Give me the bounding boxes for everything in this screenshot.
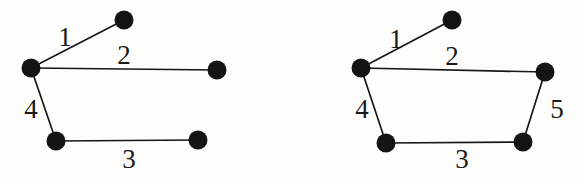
edges-layer	[31, 20, 545, 143]
graph-vertex	[443, 11, 462, 30]
graph-vertex	[208, 61, 227, 80]
graph-vertex	[22, 59, 41, 78]
graph-edge-1	[31, 20, 124, 68]
edge-label-2: 2	[445, 41, 459, 71]
edge-label-1: 1	[58, 22, 72, 52]
edge-label-3: 3	[455, 144, 469, 174]
edge-labels-layer: 124312435	[24, 22, 564, 174]
edge-label-3: 3	[122, 144, 136, 174]
graph-edge-1	[361, 20, 452, 68]
two-graph-diagram: 124312435	[0, 0, 584, 178]
edge-label-4: 4	[355, 94, 369, 124]
edge-label-2: 2	[117, 40, 131, 70]
graph-edge-5	[523, 72, 545, 142]
edge-label-1: 1	[389, 24, 403, 54]
graph-svg: 124312435	[0, 0, 584, 178]
edge-label-4: 4	[24, 94, 38, 124]
graph-vertex	[536, 63, 555, 82]
graph-vertex	[377, 134, 396, 153]
graph-vertex	[115, 11, 134, 30]
graph-vertex	[514, 133, 533, 152]
figure-canvas: 124312435	[0, 0, 584, 178]
graph-edge-3	[56, 140, 198, 141]
graph-edge-3	[386, 142, 523, 143]
graph-vertex	[189, 131, 208, 150]
edge-label-5: 5	[550, 94, 564, 124]
graph-vertex	[47, 132, 66, 151]
graph-vertex	[352, 59, 371, 78]
